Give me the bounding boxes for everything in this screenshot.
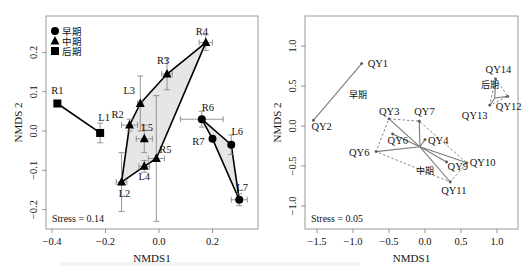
legend-circle-icon (51, 27, 59, 35)
site-label: QY3 (379, 106, 399, 117)
site-label: QY7 (414, 106, 434, 117)
site-label: QY2 (311, 121, 331, 132)
stress-annotation: Stress = 0.14 (52, 213, 104, 224)
group-label: 中期 (416, 165, 434, 176)
circle-marker (235, 196, 243, 204)
x-axis-label: NMDS1 (393, 252, 430, 264)
y-axis-label: NMDS 2 (271, 102, 283, 142)
site-label: QY12 (496, 101, 522, 112)
site-point (418, 120, 421, 123)
square-marker (53, 99, 61, 107)
x-tick-label: −0.5 (379, 236, 398, 247)
site-point (506, 95, 509, 98)
circle-marker (227, 141, 235, 149)
point-label: R2 (111, 109, 123, 120)
stress-annotation: Stress = 0.05 (311, 213, 363, 224)
group-label: 早期 (349, 90, 367, 100)
y-tick-label: 0.0 (28, 124, 39, 137)
y-tick-label: 0.2 (28, 46, 39, 59)
site-point (360, 62, 363, 65)
group-spider-line (376, 147, 420, 152)
y-tick-label: 1.0 (287, 39, 298, 52)
x-tick-label: 0.5 (454, 236, 467, 247)
legend-triangle-icon (51, 36, 60, 45)
blurred-caption (60, 262, 360, 266)
right-chart-svg: −1.5−1.0−0.50.00.51.0−1.0−0.50.00.51.0NM… (265, 0, 530, 274)
site-point (465, 161, 468, 164)
point-label: L2 (119, 188, 131, 199)
left-nmds-chart: −0.4−0.20.00.2−0.2−0.10.00.10.2NMDS1NMDS… (0, 0, 265, 274)
site-point (424, 138, 427, 141)
site-label: QY10 (470, 157, 496, 168)
circle-marker (198, 115, 206, 123)
group-spider-line (419, 121, 420, 147)
right-nmds-chart: −1.5−1.0−0.50.00.51.0−1.0−0.50.00.51.0NM… (265, 0, 530, 274)
point-label: L7 (236, 182, 248, 193)
point-label: R7 (192, 136, 204, 147)
y-tick-label: −0.2 (28, 200, 39, 219)
x-tick-label: −0.2 (96, 236, 115, 247)
legend-label: 早期 (62, 27, 82, 37)
connecting-line (57, 103, 100, 132)
site-label: QY1 (368, 58, 388, 69)
group-label: 后期 (481, 80, 499, 90)
plot-frame (305, 16, 518, 229)
point-label: R3 (157, 55, 169, 66)
site-label: QY11 (441, 185, 466, 196)
y-tick-label: −0.1 (28, 161, 39, 180)
y-tick-label: 0.1 (28, 85, 39, 98)
site-label: QY9 (448, 161, 468, 172)
site-point (388, 117, 391, 120)
site-point (375, 150, 378, 153)
x-tick-label: −1.5 (307, 236, 326, 247)
point-label: L6 (231, 126, 243, 137)
y-tick-label: 0.0 (287, 119, 298, 132)
circle-marker (209, 135, 217, 143)
site-label: QY14 (486, 64, 512, 75)
triangle-marker (201, 38, 210, 47)
site-label: QY4 (428, 135, 449, 146)
x-tick-label: −1.0 (343, 236, 362, 247)
site-label: QY6 (388, 135, 408, 146)
point-label: R6 (202, 102, 214, 113)
x-tick-label: 0.0 (418, 236, 431, 247)
y-tick-label: 0.5 (287, 79, 298, 92)
y-tick-label: −0.5 (287, 156, 298, 175)
left-chart-svg: −0.4−0.20.00.2−0.2−0.10.00.10.2NMDS1NMDS… (0, 0, 265, 274)
point-label: R5 (159, 144, 171, 155)
x-tick-label: 0.2 (206, 236, 219, 247)
site-label: QY13 (462, 110, 488, 121)
point-label: R1 (51, 85, 63, 96)
point-label: L1 (98, 112, 110, 123)
point-label: L3 (123, 85, 135, 96)
legend-label: 中期 (62, 36, 82, 47)
site-point (449, 181, 452, 184)
legend-square-icon (51, 47, 59, 55)
site-point (488, 104, 491, 107)
x-tick-label: 1.0 (490, 236, 503, 247)
legend-label: 后期 (62, 47, 82, 57)
site-label: QY6 (349, 147, 369, 158)
point-label: R4 (196, 26, 209, 37)
point-label: L4 (138, 171, 150, 182)
x-tick-label: −0.4 (42, 236, 62, 247)
y-tick-label: −1.0 (287, 196, 298, 215)
x-tick-label: 0.0 (152, 236, 165, 247)
y-axis-label: NMDS 2 (12, 102, 24, 142)
square-marker (96, 129, 104, 137)
point-label: L5 (141, 122, 153, 133)
